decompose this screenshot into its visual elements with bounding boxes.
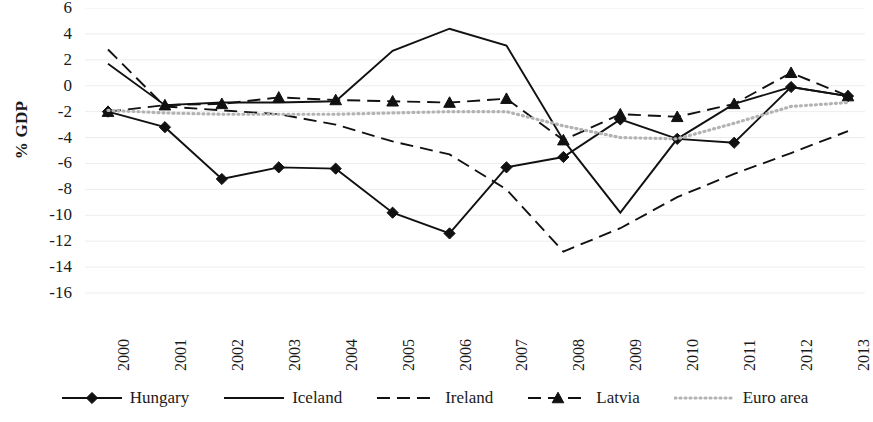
series-line <box>108 49 848 251</box>
chart-svg <box>85 8 865 299</box>
data-point-marker <box>273 92 285 103</box>
y-tick-label: -10 <box>26 206 72 223</box>
x-tick-label: 2011 <box>741 340 759 371</box>
y-tick-label: 2 <box>26 51 72 68</box>
y-tick-label: -14 <box>26 258 72 275</box>
data-point-marker <box>558 134 570 145</box>
x-tick-label: 2012 <box>798 339 816 371</box>
legend-label: Euro area <box>743 388 809 408</box>
x-tick-label: 2007 <box>513 339 531 371</box>
legend-key-icon <box>61 390 123 406</box>
legend-item-latvia[interactable]: Latvia <box>527 388 639 408</box>
legend-item-euro-area[interactable]: Euro area <box>674 388 809 408</box>
series-line <box>108 29 848 213</box>
y-tick-label: 0 <box>26 77 72 94</box>
legend-label: Ireland <box>445 388 493 408</box>
series-iceland <box>108 29 848 213</box>
y-tick-label: -6 <box>26 154 72 171</box>
x-tick-label: 2003 <box>286 339 304 371</box>
x-tick-label: 2004 <box>343 339 361 371</box>
y-tick-label: -2 <box>26 103 72 120</box>
x-tick-label: 2000 <box>115 339 133 371</box>
y-tick-label: -4 <box>26 129 72 146</box>
x-tick-label: 2006 <box>457 339 475 371</box>
data-point-marker <box>785 67 797 78</box>
x-tick-label: 2013 <box>855 339 873 371</box>
series-latvia <box>102 67 854 145</box>
x-tick-label: 2001 <box>172 339 190 371</box>
legend-item-ireland[interactable]: Ireland <box>376 388 493 408</box>
y-tick-label: 6 <box>26 0 72 16</box>
y-axis-tick-labels: 6420-2-4-6-8-10-12-14-16 <box>20 0 72 300</box>
legend-key-icon <box>376 390 438 406</box>
chart-legend: HungaryIcelandIrelandLatviaEuro area <box>0 388 869 408</box>
y-tick-label: -16 <box>26 284 72 301</box>
legend-key-icon <box>674 390 736 406</box>
data-point-marker <box>558 151 569 162</box>
plot-area <box>85 8 865 293</box>
x-tick-label: 2002 <box>229 339 247 371</box>
y-tick-label: -12 <box>26 232 72 249</box>
legend-label: Iceland <box>292 388 342 408</box>
series-ireland <box>108 49 848 251</box>
legend-label: Hungary <box>130 388 189 408</box>
legend-key-icon <box>223 390 285 406</box>
x-tick-label: 2010 <box>684 339 702 371</box>
legend-label: Latvia <box>596 388 639 408</box>
legend-item-hungary[interactable]: Hungary <box>61 388 189 408</box>
legend-item-iceland[interactable]: Iceland <box>223 388 342 408</box>
y-tick-label: 4 <box>26 25 72 42</box>
legend-key-icon <box>527 390 589 406</box>
y-tick-label: -8 <box>26 180 72 197</box>
x-tick-label: 2008 <box>570 339 588 371</box>
data-point-marker <box>615 108 627 119</box>
gridlines <box>85 8 865 293</box>
x-tick-label: 2009 <box>627 339 645 371</box>
data-point-marker <box>501 93 513 104</box>
x-tick-label: 2005 <box>400 339 418 371</box>
